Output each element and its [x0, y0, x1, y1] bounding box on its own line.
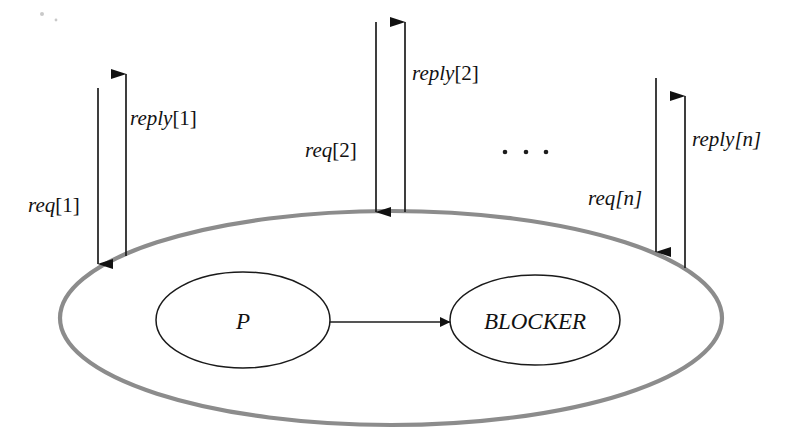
label-reply-1-index: [1] [172, 106, 197, 130]
label-reply-1-name: reply [130, 106, 173, 130]
figure-root: req[1] reply[1] req[2] reply[2] req[n] r… [0, 0, 792, 442]
label-req-2: req[2] [305, 138, 357, 162]
label-reply-1: reply[1] [130, 106, 197, 130]
node-blocker: BLOCKER [450, 275, 620, 365]
label-reply-n: reply[n] [692, 127, 761, 151]
process-p-label: P [235, 309, 250, 334]
label-reply-2-name: reply [412, 61, 455, 85]
scan-speck [55, 19, 58, 22]
messages-ellipsis [503, 150, 549, 155]
blocker-label: BLOCKER [484, 309, 586, 334]
label-req-n-index: [n] [615, 186, 642, 210]
label-req-1: req[1] [28, 193, 80, 217]
label-reply-2-index: [2] [454, 61, 479, 85]
label-req-2-index: [2] [332, 138, 357, 162]
ellipsis-dot [503, 150, 508, 155]
label-req-1-index: [1] [55, 193, 80, 217]
diagram-canvas: req[1] reply[1] req[2] reply[2] req[n] r… [0, 0, 792, 442]
ellipsis-dot [544, 150, 549, 155]
label-req-2-name: req [305, 138, 333, 162]
scan-specks [40, 12, 57, 21]
message-labels: req[1] reply[1] req[2] reply[2] req[n] r… [28, 61, 761, 217]
ellipsis-dot [524, 150, 529, 155]
label-req-n-name: req [588, 186, 616, 210]
label-reply-n-name: reply [692, 127, 735, 151]
label-req-n: req[n] [588, 186, 642, 210]
node-process-p: P [156, 272, 330, 368]
label-req-1-name: req [28, 193, 56, 217]
label-reply-n-index: [n] [734, 127, 761, 151]
label-reply-2: reply[2] [412, 61, 479, 85]
scan-speck [40, 12, 44, 16]
